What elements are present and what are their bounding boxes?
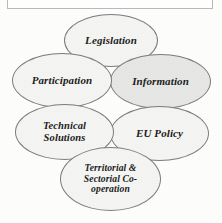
ellipse-information[interactable]: Information [110,54,211,109]
ellipse-label-territorial-line1: Territorial & [85,162,137,173]
ellipse-label-participation: Participation [28,74,97,86]
ellipse-label-eu-policy: EU Policy [132,127,187,139]
ellipse-label-territorial-line2: Sectorial Co- [84,173,137,184]
ellipse-cluster-diagram: Legislation Participation Information Te… [0,0,222,223]
ellipse-label-territorial-sectorial-cooperation: Territorial & Sectorial Co- operation [80,163,141,195]
ellipse-label-information: Information [128,75,193,87]
ellipse-label-territorial-line3: operation [91,183,130,194]
ellipse-label-technical-solutions: Technical Solutions [39,120,90,144]
ellipse-label-technical-solutions-line2: Solutions [44,132,86,143]
ellipse-label-legislation: Legislation [81,34,141,46]
ellipse-territorial-sectorial-cooperation[interactable]: Territorial & Sectorial Co- operation [60,147,161,211]
diagram-page: Legislation Participation Information Te… [0,0,222,223]
ellipse-participation[interactable]: Participation [12,53,112,108]
ellipse-label-technical-solutions-line1: Technical [43,120,86,131]
